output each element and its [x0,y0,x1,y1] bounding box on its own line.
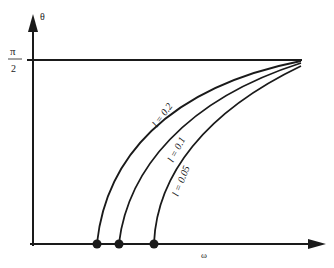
marker-l-0.05 [150,240,159,249]
curve-label-l-0.05: l = 0.05 [170,164,192,198]
curve-label-l-0.1: l = 0.1 [165,135,187,164]
x-axis-label: ω [201,250,207,260]
marker-l-0.2 [93,240,102,249]
y-axis-arrow-icon [28,14,38,32]
pi-label: π [10,45,16,57]
marker-l-0.1 [115,240,124,249]
x-axis-arrow-icon [308,239,326,249]
curve-l-0.2 [97,61,301,243]
theta-omega-chart: θ ω π 2 l = 0.2 l = 0.1 l = 0.05 [0,0,334,268]
two-label: 2 [11,63,16,74]
y-axis-label: θ [40,11,45,22]
